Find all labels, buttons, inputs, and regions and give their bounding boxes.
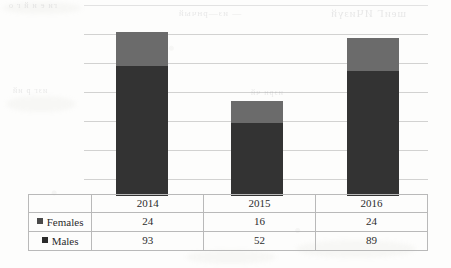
bar-segment-males <box>231 123 283 196</box>
legend-cell-females: Females <box>29 213 92 232</box>
scanned-page: — из—рнчый шеиГ ИЧизүй ги е и й г о изг … <box>0 0 451 268</box>
bar-2015 <box>231 101 283 196</box>
cell-males-2015: 52 <box>204 231 316 250</box>
bar-2016 <box>347 38 399 196</box>
gridline <box>84 5 428 6</box>
table-header-row: 2014 2015 2016 <box>29 195 428 213</box>
column-header-2015: 2015 <box>204 195 316 213</box>
cell-males-2016: 89 <box>316 231 428 250</box>
table-row-males: Males 93 52 89 <box>29 231 428 250</box>
table-corner-cell <box>29 195 92 213</box>
legend-cell-males: Males <box>29 231 92 250</box>
cell-males-2014: 93 <box>92 231 204 250</box>
bar-segment-males <box>116 66 168 196</box>
cell-females-2016: 24 <box>316 213 428 232</box>
scan-smudge <box>186 250 276 264</box>
table-row-females: Females 24 16 24 <box>29 213 428 232</box>
cell-females-2014: 24 <box>92 213 204 232</box>
bar-segment-females <box>347 38 399 72</box>
stacked-bar-chart <box>0 0 451 196</box>
cell-females-2015: 16 <box>204 213 316 232</box>
column-header-2014: 2014 <box>92 195 204 213</box>
chart-data-table: 2014 2015 2016 Females 24 16 24 Males 93… <box>28 194 428 251</box>
column-header-2016: 2016 <box>316 195 428 213</box>
legend-label-females: Females <box>47 216 84 228</box>
legend-label-males: Males <box>52 235 79 247</box>
legend-swatch-males-icon <box>42 237 48 243</box>
bar-segment-females <box>116 32 168 66</box>
bar-segment-males <box>347 71 399 196</box>
bar-2014 <box>116 32 168 196</box>
bar-segment-females <box>231 101 283 123</box>
legend-swatch-females-icon <box>37 218 43 224</box>
